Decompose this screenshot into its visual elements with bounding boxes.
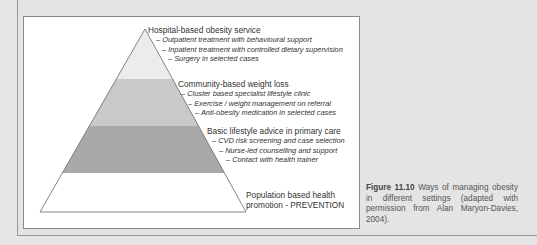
tier-heading: Population based health [246,190,344,200]
tier-item: – Anti-obesity medication in selected ca… [178,108,336,118]
band-population [40,173,246,212]
tier-hospital: Hospital-based obesity service – Outpati… [148,25,343,64]
figure-caption: Figure 11.10 Ways of managing obesity in… [366,183,518,225]
tier-item: – Contact with health trainer [207,155,345,165]
tier-item: – CVD risk screening and case selection [207,136,345,146]
tier-population: Population based health promotion - PREV… [246,190,344,210]
tier-community: Community-based weight loss – Cluster ba… [178,79,336,118]
tier-heading: promotion - PREVENTION [246,200,344,210]
tier-primary-care: Basic lifestyle advice in primary care –… [207,126,345,165]
tier-item: – Surgery in selected cases [148,54,343,64]
tier-heading: Community-based weight loss [178,79,336,89]
tier-heading: Hospital-based obesity service [148,25,343,35]
tier-heading: Basic lifestyle advice in primary care [207,126,345,136]
band-primary-care [62,126,224,173]
tier-item: – Outpatient treatment with behavioural … [148,35,343,45]
tier-item: – Inpatient treatment with controlled di… [148,45,343,55]
tier-item: – Nurse-led counselling and support [207,146,345,156]
tier-item: – Exercise / weight management on referr… [178,99,336,109]
tier-item: – Cluster based specialist lifestyle cli… [178,89,336,99]
figure-label: Figure 11.10 [366,183,415,192]
